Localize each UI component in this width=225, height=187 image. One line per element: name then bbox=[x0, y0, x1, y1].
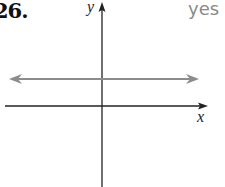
y-axis bbox=[99, 2, 106, 187]
x-axis bbox=[5, 103, 208, 110]
x-axis-label: x bbox=[197, 108, 204, 126]
y-axis-label: y bbox=[87, 0, 94, 16]
graph-figure: 26. yes y x bbox=[0, 0, 225, 187]
coordinate-plane bbox=[0, 0, 225, 187]
horizontal-line bbox=[9, 74, 199, 84]
